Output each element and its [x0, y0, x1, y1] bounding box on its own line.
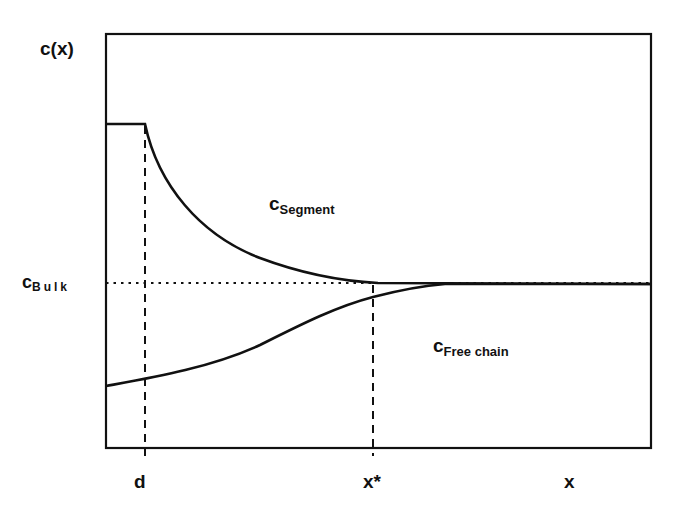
segment-subscript: Segment: [280, 202, 335, 217]
segment-curve: [106, 124, 651, 284]
free-subscript: Free chain: [444, 344, 509, 359]
bulk-subscript: Bulk: [32, 280, 70, 294]
y-axis-label: c(x): [40, 38, 74, 60]
x-tick-xstar: x*: [363, 471, 381, 493]
x-axis-label: x: [564, 471, 575, 493]
bulk-c: c: [22, 272, 32, 292]
segment-c: c: [269, 193, 280, 214]
free-c: c: [433, 335, 444, 356]
x-tick-d: d: [134, 471, 146, 493]
concentration-profile-chart: [0, 0, 674, 509]
plot-frame: [106, 34, 651, 448]
segment-curve-label: cSegment: [269, 193, 334, 217]
free-chain-curve: [106, 284, 651, 386]
free-chain-curve-label: cFree chain: [433, 335, 509, 359]
bulk-level-label: cBulk: [22, 272, 70, 294]
